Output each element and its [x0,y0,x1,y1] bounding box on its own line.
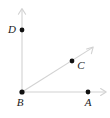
vertical-axis-group [18,9,25,92]
point-D-label: D [7,23,16,35]
horizontal-axis-group [22,89,106,96]
point-C: C [70,59,86,71]
point-B-dot [19,89,24,94]
point-A-label: A [84,96,92,108]
point-A-dot [86,90,91,95]
point-B-label: B [17,96,24,108]
geometry-figure: D C B A [0,0,110,118]
point-C-label: C [77,59,85,71]
figure-canvas: D C B A [0,0,110,118]
point-B: B [17,89,25,107]
point-C-dot [70,59,75,64]
point-D-dot [20,28,25,33]
